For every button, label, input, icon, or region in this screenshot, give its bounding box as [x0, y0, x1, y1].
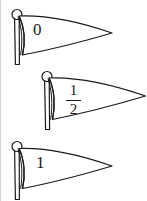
flagpole-shaft-one-half — [45, 81, 50, 130]
pennant-body-one-half — [49, 78, 146, 120]
flag-label-one: 1 — [36, 154, 45, 171]
fraction-denominator: 2 — [70, 102, 78, 118]
flag-label-zero: 0 — [33, 21, 42, 38]
flagpole-shaft-one — [15, 151, 20, 200]
flag-label-one-half: 1 2 — [66, 83, 81, 118]
flag-group-zero — [12, 10, 112, 65]
pennant-body-one — [19, 148, 112, 188]
flagpole-shaft-zero — [15, 19, 20, 65]
flag-group-one-half — [42, 72, 146, 130]
figure-canvas: 0 1 2 1 — [0, 0, 147, 201]
fraction-numerator: 1 — [70, 83, 78, 99]
flag-group-one — [12, 142, 112, 200]
